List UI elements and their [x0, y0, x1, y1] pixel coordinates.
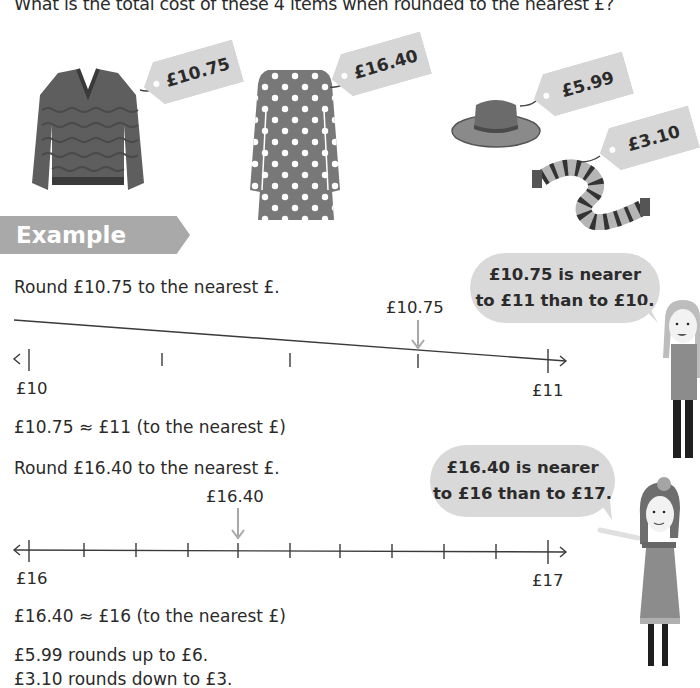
- marker-label-1: £10.75: [386, 298, 444, 317]
- tag-hole: [609, 146, 616, 153]
- price-label: £16.40: [351, 45, 420, 82]
- girl-character-2: [598, 478, 678, 670]
- number-line-10-11: [0, 320, 580, 380]
- tag-hole: [153, 80, 160, 87]
- result-2: £16.40 ≈ £16 (to the nearest £): [14, 606, 286, 626]
- girl-character-1: [655, 298, 700, 463]
- speech-bubble-1: £10.75 is nearer to £11 than to £10.: [470, 253, 660, 323]
- result-1: £10.75 ≈ £11 (to the nearest £): [14, 417, 286, 437]
- jumper-image: [28, 65, 148, 200]
- instruction-2: Round £16.40 to the nearest £.: [14, 458, 280, 478]
- marker-label-2: £16.40: [206, 487, 264, 506]
- price-tag-jumper: £10.75: [138, 39, 244, 108]
- start-label-2: £16: [16, 569, 48, 588]
- bubble-line: to £16 than to £17.: [433, 481, 612, 507]
- tag-hole: [341, 72, 348, 79]
- speech-bubble-2: £16.40 is nearer to £16 than to £17.: [430, 445, 615, 517]
- bubble-line: £16.40 is nearer: [446, 455, 598, 481]
- start-label-1: £10: [16, 379, 48, 398]
- instruction-1: Round £10.75 to the nearest £.: [14, 277, 280, 297]
- note-hat: £5.99 rounds up to £6.: [14, 645, 208, 665]
- end-label-2: £17: [532, 571, 564, 590]
- question-text: What is the total cost of these 4 items …: [14, 0, 614, 14]
- number-line-16-17: [0, 510, 580, 570]
- end-label-1: £11: [532, 381, 564, 400]
- price-tag-hat: £5.99: [528, 51, 634, 120]
- example-heading: Example: [0, 216, 190, 254]
- tag-string: [580, 155, 605, 165]
- price-tag-dress: £16.40: [326, 31, 432, 100]
- price-label: £10.75: [163, 53, 232, 90]
- bubble-line: to £11 than to £10.: [475, 288, 654, 314]
- bubble-line: £10.75 is nearer: [489, 262, 641, 288]
- dress-image: [250, 70, 340, 225]
- note-scarf: £3.10 rounds down to £3.: [14, 669, 232, 688]
- price-label: £5.99: [559, 67, 616, 101]
- scarf-image: [532, 158, 652, 228]
- tag-hole: [543, 92, 550, 99]
- price-label: £3.10: [625, 121, 682, 155]
